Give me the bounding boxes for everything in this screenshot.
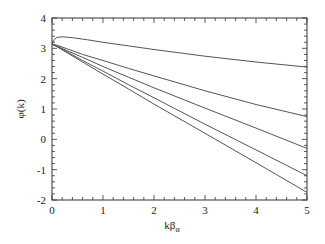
series-line-curve-4 — [52, 44, 307, 176]
series-line-curve-2 — [52, 44, 307, 117]
x-tick-label: 4 — [253, 204, 259, 216]
y-tick-label: 4 — [41, 12, 47, 24]
y-tick-label: 3 — [41, 42, 47, 54]
y-tick-label: 0 — [41, 133, 47, 145]
series-line-curve-5 — [52, 44, 307, 192]
x-tick-label: 0 — [49, 204, 55, 216]
line-chart: 012345-2-101234 φ(k) kβα — [0, 0, 325, 244]
x-tick-label: 3 — [202, 204, 208, 216]
x-tick-label: 1 — [100, 204, 106, 216]
tick-labels: 012345-2-101234 — [37, 12, 310, 216]
data-series — [52, 37, 307, 193]
axis-ticks — [52, 18, 307, 200]
y-tick-label: -2 — [37, 194, 46, 206]
x-axis-label: kβα — [164, 219, 180, 234]
series-line-curve-3 — [52, 44, 307, 148]
plot-frame — [52, 18, 307, 200]
x-tick-label: 2 — [151, 204, 157, 216]
y-axis-label: φ(k) — [14, 99, 27, 119]
series-line-curve-1 — [52, 37, 307, 67]
y-tick-label: 2 — [41, 73, 47, 85]
y-tick-label: 1 — [41, 103, 47, 115]
x-tick-label: 5 — [304, 204, 310, 216]
y-tick-label: -1 — [37, 164, 46, 176]
